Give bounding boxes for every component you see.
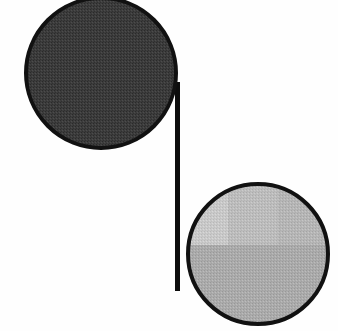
- figure-canvas: [0, 0, 338, 331]
- dark-circle-body: [26, 0, 176, 148]
- dark-circle: [26, 0, 176, 148]
- connector-line: [175, 82, 180, 291]
- light-circle: [186, 182, 330, 326]
- mid-tone-band-patch: [228, 182, 278, 245]
- diagram-svg: [0, 0, 338, 331]
